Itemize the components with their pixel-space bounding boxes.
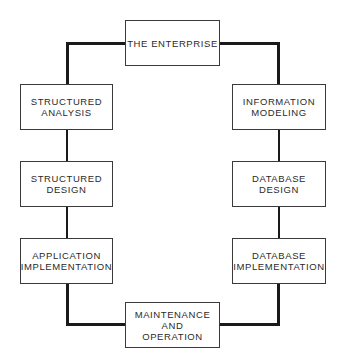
connector-application-maintenance-v bbox=[66, 282, 69, 326]
node-database-design: DATABASE DESIGN bbox=[232, 161, 326, 207]
connector-design-application bbox=[66, 205, 68, 239]
node-database-implementation: DATABASE IMPLEMENTATION bbox=[232, 238, 326, 284]
node-structured-design: STRUCTURED DESIGN bbox=[20, 161, 113, 207]
connector-application-maintenance-h bbox=[66, 323, 126, 326]
node-the-enterprise: THE ENTERPRISE bbox=[125, 20, 220, 66]
connector-modeling-dbdesign bbox=[278, 129, 280, 162]
connector-enterprise-left-h bbox=[66, 42, 126, 45]
connector-dbimpl-maintenance-h bbox=[218, 323, 280, 326]
connector-dbdesign-dbimpl bbox=[278, 205, 280, 239]
node-maintenance-and-operation: MAINTENANCE AND OPERATION bbox=[125, 302, 220, 348]
node-information-modeling: INFORMATION MODELING bbox=[232, 84, 326, 130]
node-structured-analysis: STRUCTURED ANALYSIS bbox=[20, 84, 113, 130]
connector-dbimpl-maintenance-v bbox=[277, 282, 280, 326]
node-application-implementation: APPLICATION IMPLEMENTATION bbox=[20, 238, 113, 284]
connector-enterprise-right-v bbox=[277, 42, 280, 85]
connector-enterprise-left-v bbox=[66, 42, 69, 85]
connector-analysis-design bbox=[66, 129, 68, 162]
connector-enterprise-right-h bbox=[218, 42, 280, 45]
